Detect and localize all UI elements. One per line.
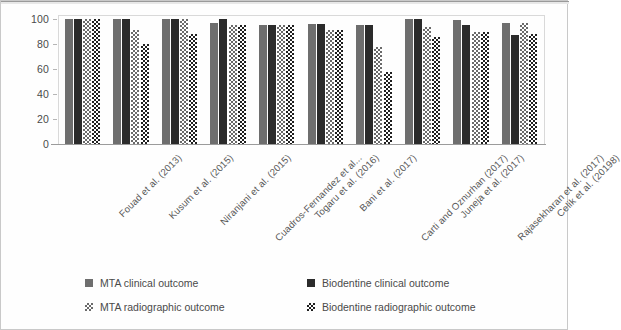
bar-group [204, 19, 253, 144]
legend-item[interactable]: MTA clinical outcome [85, 277, 198, 289]
bar [189, 34, 197, 144]
y-axis-tick-label: 100 [15, 14, 49, 24]
bar [423, 27, 431, 145]
plot-area [58, 19, 544, 144]
y-axis-tick-mark [53, 119, 57, 120]
bar [238, 25, 246, 144]
y-axis-tick-mark [53, 69, 57, 70]
x-axis-label: Carti and Oznurhan (2017) [418, 152, 509, 243]
y-axis-tick-mark [53, 94, 57, 95]
bar [210, 23, 218, 144]
top-rule-divider [1, 1, 569, 4]
bar [326, 30, 334, 144]
checker-gray-swatch [85, 303, 93, 311]
y-axis-tick-mark [53, 44, 57, 45]
legend-item-label: Biodentine radiographic outcome [322, 301, 476, 313]
bar [286, 25, 294, 144]
bar-group [155, 19, 204, 144]
bar [529, 34, 537, 144]
bar [277, 25, 285, 144]
y-axis-tick-label: 40 [15, 89, 49, 99]
bar [335, 30, 343, 144]
chart-legend: MTA clinical outcomeBiodentine clinical … [85, 277, 505, 323]
legend-item-label: MTA clinical outcome [100, 277, 198, 289]
legend-item[interactable]: Biodentine radiographic outcome [307, 301, 476, 313]
bar [520, 23, 528, 144]
x-axis-baseline [51, 144, 546, 145]
bar [65, 19, 73, 144]
bar [414, 19, 422, 144]
bar [405, 19, 413, 144]
bar [502, 23, 510, 144]
x-axis-label: Rajasekharan et al. (2017) [515, 152, 605, 242]
checker-black-swatch [307, 303, 315, 311]
bar [481, 32, 489, 145]
bar-group [398, 19, 447, 144]
bar [432, 37, 440, 145]
bar [122, 19, 130, 144]
y-axis-tick-label: 60 [15, 64, 49, 74]
bar [229, 25, 237, 144]
bar [308, 24, 316, 144]
bar-group [447, 19, 496, 144]
legend-item[interactable]: Biodentine clinical outcome [307, 277, 449, 289]
bar [113, 19, 121, 144]
bar [131, 30, 139, 144]
solid-gray-swatch [85, 279, 93, 287]
bar [317, 24, 325, 144]
bar [511, 35, 519, 144]
legend-item[interactable]: MTA radiographic outcome [85, 301, 225, 313]
x-axis-labels: Fouad et al. (2013)Kusum et al. (2015)Ni… [1, 146, 569, 266]
bar [365, 25, 373, 144]
bar-group [350, 19, 399, 144]
legend-item-label: Biodentine clinical outcome [322, 277, 449, 289]
bar-group [495, 19, 544, 144]
bar [92, 19, 100, 144]
bar [374, 47, 382, 145]
legend-item-label: MTA radiographic outcome [100, 301, 225, 313]
bar-group [58, 19, 107, 144]
bar-group [252, 19, 301, 144]
y-axis-tick-label: 80 [15, 39, 49, 49]
bar [171, 19, 179, 144]
bar [162, 19, 170, 144]
bar [268, 25, 276, 144]
y-axis-tick-mark [53, 19, 57, 20]
bar [356, 25, 364, 144]
bar [259, 25, 267, 144]
bar [462, 25, 470, 144]
bar [384, 72, 392, 145]
bar [83, 19, 91, 144]
bar [453, 20, 461, 144]
solid-black-swatch [307, 279, 315, 287]
bar-group [301, 19, 350, 144]
y-axis-tick-label: 20 [15, 114, 49, 124]
bar [74, 19, 82, 144]
bar [219, 19, 227, 144]
bar [472, 32, 480, 145]
bar-group [107, 19, 156, 144]
bar [180, 19, 188, 144]
bar [141, 44, 149, 144]
